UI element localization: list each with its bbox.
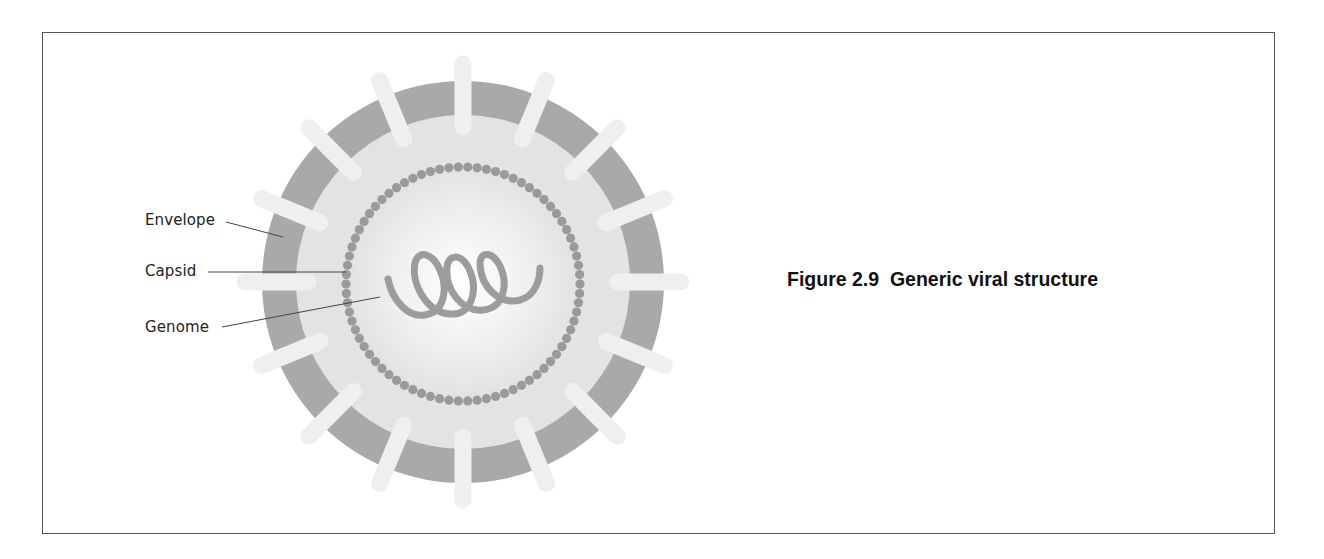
capsomere-dot bbox=[532, 370, 541, 379]
capsomere-dot bbox=[355, 334, 364, 343]
capsomere-dot bbox=[575, 279, 584, 288]
capsomere-dot bbox=[463, 162, 472, 171]
capsomere-dot bbox=[482, 165, 491, 174]
capsomere-dot bbox=[341, 279, 350, 288]
capsomere-dot bbox=[517, 381, 526, 390]
capsomere-dot bbox=[574, 261, 583, 270]
capsomere-dot bbox=[575, 270, 584, 279]
capsomere-dot bbox=[532, 189, 541, 198]
capsomere-dot bbox=[408, 385, 417, 394]
capsid-label: Capsid bbox=[145, 262, 196, 280]
capsomere-dot bbox=[377, 364, 386, 373]
capsomere-dot bbox=[454, 162, 463, 171]
genome-label: Genome bbox=[145, 318, 209, 336]
capsomere-dot bbox=[552, 350, 561, 359]
capsomere-dot bbox=[347, 242, 356, 251]
capsomere-dot bbox=[392, 376, 401, 385]
capsomere-dot bbox=[491, 167, 500, 176]
capsomere-dot bbox=[345, 251, 354, 260]
capsomere-dot bbox=[491, 392, 500, 401]
capsomere-dot bbox=[539, 364, 548, 373]
capsomere-dot bbox=[557, 342, 566, 351]
figure-caption: Figure 2.9 Generic viral structure bbox=[787, 268, 1098, 291]
capsomere-dot bbox=[509, 174, 518, 183]
capsomere-dot bbox=[400, 381, 409, 390]
capsomere-dot bbox=[400, 178, 409, 187]
capsomere-dot bbox=[417, 170, 426, 179]
capsomere-dot bbox=[444, 396, 453, 405]
capsomere-dot bbox=[444, 163, 453, 172]
capsomere-dot bbox=[435, 394, 444, 403]
capsomere-dot bbox=[360, 217, 369, 226]
capsomere-dot bbox=[377, 195, 386, 204]
capsomere-dot bbox=[525, 183, 534, 192]
capsomere-dot bbox=[408, 174, 417, 183]
capsomere-dot bbox=[342, 270, 351, 279]
capsomere-dot bbox=[384, 370, 393, 379]
capsomere-dot bbox=[517, 178, 526, 187]
capsomere-dot bbox=[343, 261, 352, 270]
capsomere-dot bbox=[454, 396, 463, 405]
capsomere-dot bbox=[365, 350, 374, 359]
capsomere-dot bbox=[539, 195, 548, 204]
capsomere-dot bbox=[463, 396, 472, 405]
capsomere-dot bbox=[562, 225, 571, 234]
capsomere-dot bbox=[426, 392, 435, 401]
capsomere-dot bbox=[566, 234, 575, 243]
capsomere-dot bbox=[500, 170, 509, 179]
capsomere-dot bbox=[342, 289, 351, 298]
capsomere-dot bbox=[355, 225, 364, 234]
capsomere-dot bbox=[552, 209, 561, 218]
capsomere-dot bbox=[347, 316, 356, 325]
capsomere-dot bbox=[482, 394, 491, 403]
capsomere-dot bbox=[351, 325, 360, 334]
capsomere-dot bbox=[569, 316, 578, 325]
capsomere-dot bbox=[417, 389, 426, 398]
capsomere-dot bbox=[575, 289, 584, 298]
capsomere-dot bbox=[345, 307, 354, 316]
capsomere-dot bbox=[384, 189, 393, 198]
capsomere-dot bbox=[574, 298, 583, 307]
capsomere-dot bbox=[371, 202, 380, 211]
capsomere-dot bbox=[557, 217, 566, 226]
capsomere-dot bbox=[426, 167, 435, 176]
capsomere-dot bbox=[365, 209, 374, 218]
capsomere-dot bbox=[392, 183, 401, 192]
capsomere-dot bbox=[360, 342, 369, 351]
capsomere-dot bbox=[546, 357, 555, 366]
capsomere-dot bbox=[525, 376, 534, 385]
capsomere-dot bbox=[509, 385, 518, 394]
capsomere-dot bbox=[566, 325, 575, 334]
capsomere-dot bbox=[546, 202, 555, 211]
capsomere-dot bbox=[435, 165, 444, 174]
capsomere-dot bbox=[572, 251, 581, 260]
capsomere-dot bbox=[473, 163, 482, 172]
envelope-label: Envelope bbox=[145, 211, 215, 229]
capsomere-dot bbox=[562, 334, 571, 343]
capsomere-dot bbox=[500, 389, 509, 398]
capsomere-dot bbox=[473, 396, 482, 405]
capsomere-dot bbox=[569, 242, 578, 251]
viral-structure-diagram bbox=[0, 0, 1324, 559]
capsomere-dot bbox=[351, 234, 360, 243]
capsomere-dot bbox=[371, 357, 380, 366]
capsomere-dot bbox=[572, 307, 581, 316]
